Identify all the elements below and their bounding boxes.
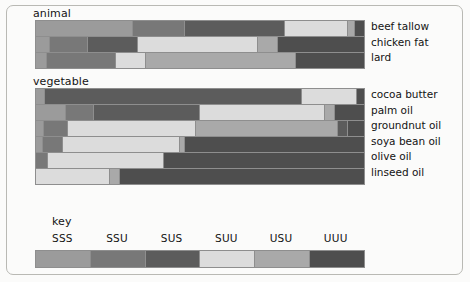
group-title-vegetable: vegetable bbox=[33, 75, 89, 88]
bar-segment-uuu bbox=[296, 53, 364, 68]
bar-group-vegetable bbox=[35, 88, 365, 185]
bar-segment-uuu bbox=[185, 137, 364, 152]
bar-segment-suu bbox=[68, 121, 196, 136]
bar-segment-sss bbox=[36, 137, 43, 152]
bar-segment-sus bbox=[185, 21, 285, 36]
key-swatch-bar bbox=[35, 250, 365, 268]
stacked-bar bbox=[36, 21, 364, 36]
bar-segment-sss bbox=[36, 37, 50, 52]
stacked-bar bbox=[36, 136, 364, 152]
bar-segment-usu bbox=[146, 53, 296, 68]
bar-labels-vegetable: cocoa butterpalm oilgroundnut oilsoya be… bbox=[371, 87, 441, 181]
stacked-bar bbox=[36, 168, 364, 184]
key-swatch-sus bbox=[146, 251, 201, 267]
stacked-bar bbox=[36, 89, 364, 104]
bar-labels-animal: beef tallowchicken fatlard bbox=[371, 19, 429, 66]
key-swatch-sss bbox=[36, 251, 91, 267]
key-label-sus: SUS bbox=[144, 232, 199, 244]
bar-segment-ssu bbox=[50, 37, 88, 52]
stacked-bar bbox=[36, 36, 364, 52]
key-title: key bbox=[52, 215, 72, 228]
bar-segment-suu bbox=[285, 21, 348, 36]
bar-segment-uuu bbox=[164, 153, 364, 168]
bar-group-animal bbox=[35, 20, 365, 69]
bar-segment-ssu bbox=[36, 153, 48, 168]
key-labels: SSSSSUSUSSUUUSUUUU bbox=[35, 232, 363, 244]
bar-segment-ssu bbox=[66, 105, 94, 120]
bar-label: beef tallow bbox=[371, 19, 429, 35]
key-label-uuu: UUU bbox=[308, 232, 363, 244]
bar-segment-uuu bbox=[120, 169, 364, 184]
key-swatch-ssu bbox=[91, 251, 146, 267]
key-swatch-uuu bbox=[310, 251, 364, 267]
figure-root: animal beef tallowchicken fatlard vegeta… bbox=[0, 0, 470, 282]
bar-segment-uuu bbox=[348, 121, 364, 136]
bar-segment-suu bbox=[138, 37, 258, 52]
bar-segment-sss bbox=[36, 53, 47, 68]
bar-label: cocoa butter bbox=[371, 87, 441, 103]
bar-segment-suu bbox=[36, 169, 110, 184]
stacked-bar bbox=[36, 152, 364, 168]
bar-segment-sss bbox=[36, 121, 44, 136]
bar-label: palm oil bbox=[371, 103, 441, 119]
bar-segment-usu bbox=[110, 169, 120, 184]
key-label-suu: SUU bbox=[199, 232, 254, 244]
bar-label: linseed oil bbox=[371, 165, 441, 181]
bar-segment-sss bbox=[36, 21, 133, 36]
bar-segment-suu bbox=[63, 137, 180, 152]
key-swatch-suu bbox=[200, 251, 255, 267]
bar-label: soya bean oil bbox=[371, 134, 441, 150]
bar-segment-usu bbox=[196, 121, 338, 136]
stacked-bar bbox=[36, 52, 364, 68]
bar-segment-suu bbox=[116, 53, 146, 68]
bar-segment-sus bbox=[94, 105, 200, 120]
bar-segment-sss bbox=[36, 89, 45, 104]
key-label-usu: USU bbox=[254, 232, 309, 244]
bar-segment-suu bbox=[302, 89, 357, 104]
bar-segment-uuu bbox=[278, 37, 364, 52]
bar-segment-uuu bbox=[357, 89, 364, 104]
bar-segment-sus bbox=[338, 121, 348, 136]
stacked-bar bbox=[36, 120, 364, 136]
bar-segment-ssu bbox=[47, 53, 116, 68]
bar-segment-usu bbox=[258, 37, 278, 52]
stacked-bar bbox=[36, 104, 364, 120]
bar-segment-sus bbox=[88, 37, 138, 52]
bar-label: olive oil bbox=[371, 149, 441, 165]
bar-segment-sss bbox=[36, 105, 66, 120]
bar-segment-sus bbox=[45, 89, 302, 104]
bar-label: chicken fat bbox=[371, 35, 429, 51]
bar-segment-ssu bbox=[133, 21, 185, 36]
bar-segment-ssu bbox=[44, 121, 68, 136]
key-swatch-usu bbox=[255, 251, 310, 267]
bar-segment-suu bbox=[48, 153, 164, 168]
bar-segment-ssu bbox=[43, 137, 63, 152]
key-label-ssu: SSU bbox=[90, 232, 145, 244]
key-label-sss: SSS bbox=[35, 232, 90, 244]
group-title-animal: animal bbox=[33, 7, 71, 20]
bar-segment-usu bbox=[325, 105, 335, 120]
bar-segment-uuu bbox=[335, 105, 364, 120]
bar-label: groundnut oil bbox=[371, 118, 441, 134]
bar-segment-uuu bbox=[355, 21, 364, 36]
bar-segment-usu bbox=[348, 21, 355, 36]
bar-label: lard bbox=[371, 50, 429, 66]
bar-segment-suu bbox=[200, 105, 325, 120]
